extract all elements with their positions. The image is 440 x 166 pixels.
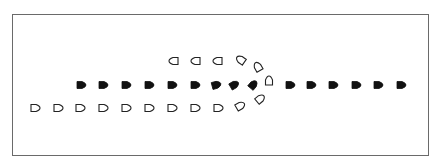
marker-field: [0, 0, 440, 166]
hollow-marker-icon: [169, 58, 178, 65]
hollow-marker-icon: [235, 100, 246, 111]
hollow-marker-icon: [145, 105, 154, 112]
hollow-marker-icon: [214, 105, 223, 112]
filled-marker-icon: [229, 79, 240, 90]
hollow-marker-icon: [235, 54, 246, 65]
filled-marker-icon: [286, 82, 295, 89]
filled-marker-icon: [77, 82, 86, 89]
hollow-marker-icon: [191, 105, 200, 112]
hollow-marker-icon: [76, 105, 85, 112]
hollow-marker-icon: [213, 58, 222, 65]
hollow-marker-icon: [54, 105, 63, 112]
filled-marker-icon: [168, 82, 177, 89]
filled-marker-icon: [211, 80, 222, 89]
hollow-marker-icon: [168, 105, 177, 112]
hollow-marker-icon: [191, 58, 200, 65]
hollow-marker-icon: [31, 105, 40, 112]
filled-marker-icon: [352, 82, 361, 89]
hollow-marker-icon: [122, 105, 131, 112]
filled-marker-icon: [99, 82, 108, 89]
hollow-marker-icon: [255, 93, 266, 104]
filled-marker-icon: [145, 82, 154, 89]
filled-marker-icon: [191, 82, 200, 89]
filled-marker-icon: [248, 79, 259, 90]
filled-marker-icon: [307, 82, 316, 89]
filled-marker-icon: [374, 82, 383, 89]
filled-marker-icon: [329, 82, 338, 89]
hollow-marker-icon: [252, 61, 263, 72]
hollow-marker-icon: [266, 76, 273, 85]
filled-marker-icon: [122, 82, 131, 89]
hollow-marker-icon: [99, 105, 108, 112]
filled-marker-icon: [397, 82, 406, 89]
